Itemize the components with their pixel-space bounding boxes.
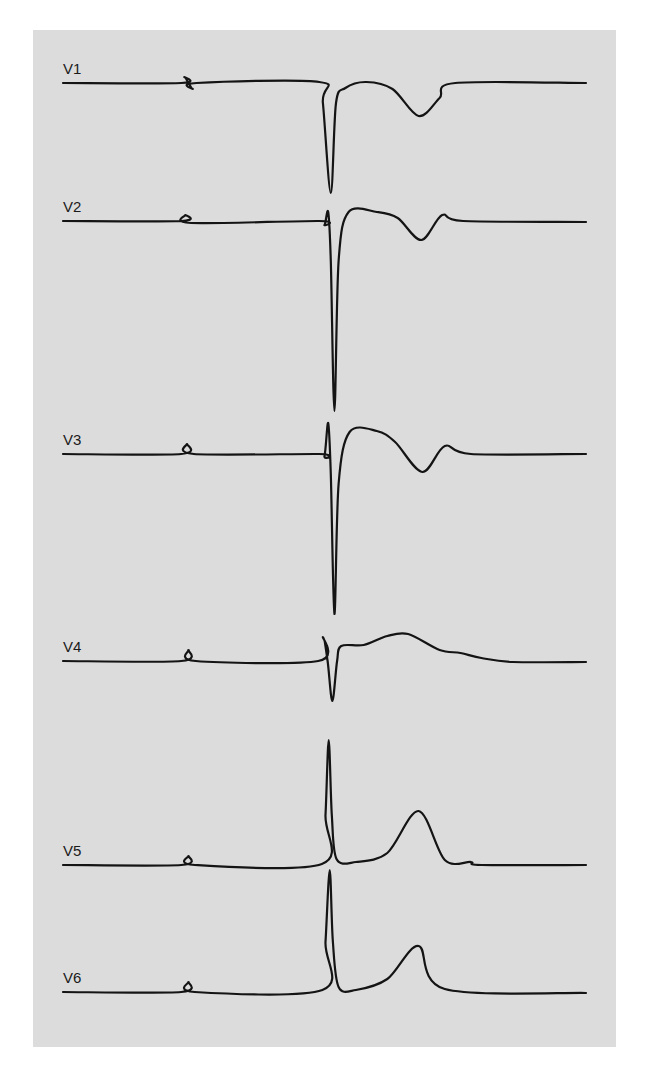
lead-label: V5 xyxy=(63,842,81,859)
lead-v1: V1 xyxy=(63,60,586,193)
ecg-trace xyxy=(63,870,586,995)
lead-label: V3 xyxy=(63,431,81,448)
ecg-trace xyxy=(63,77,586,193)
ecg-trace xyxy=(63,633,586,701)
lead-v6: V6 xyxy=(63,870,586,995)
lead-label: V2 xyxy=(63,198,81,215)
ecg-chart: V1V2V3V4V5V6 xyxy=(0,0,647,1071)
ecg-trace xyxy=(63,423,586,614)
lead-label: V1 xyxy=(63,60,81,77)
lead-v5: V5 xyxy=(63,740,586,868)
ecg-trace xyxy=(63,208,586,411)
lead-v4: V4 xyxy=(63,633,586,701)
lead-v3: V3 xyxy=(63,423,586,614)
lead-label: V6 xyxy=(63,969,81,986)
lead-v2: V2 xyxy=(63,198,586,411)
lead-label: V4 xyxy=(63,638,81,655)
ecg-trace xyxy=(63,740,586,868)
